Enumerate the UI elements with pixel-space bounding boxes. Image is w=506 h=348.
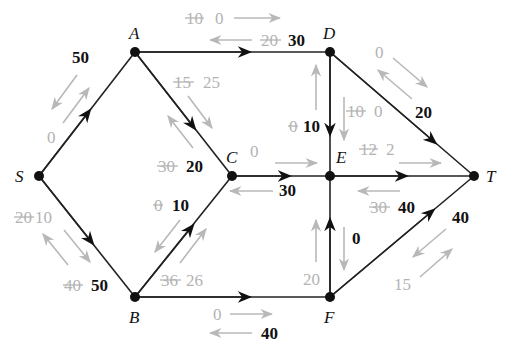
ft-back-value: 40 xyxy=(452,208,469,227)
label-d: D xyxy=(322,24,336,43)
sb-fwd-value: 10 xyxy=(35,208,52,227)
node-b xyxy=(130,292,140,302)
dt-fwd-arrow-icon xyxy=(393,58,427,87)
node-f xyxy=(325,292,335,302)
ad-fwd-value: 0 xyxy=(215,9,224,28)
sb-back-arrow-icon xyxy=(43,234,68,265)
et-fwd-value: 2 xyxy=(386,140,395,159)
label-a: A xyxy=(128,24,140,43)
de-fwd-value: 0 xyxy=(374,102,383,121)
sa-fwd-value: 0 xyxy=(47,128,56,147)
ft-back-arrow-icon xyxy=(413,229,446,257)
ft-fwd-arrow-icon xyxy=(420,249,452,277)
ce-back-value: 30 xyxy=(279,181,296,200)
node-c xyxy=(227,171,237,181)
label-s: S xyxy=(15,167,24,186)
node-e xyxy=(325,171,335,181)
fe-back-value: 0 xyxy=(352,229,361,248)
edges xyxy=(39,52,474,297)
dt-back-value: 20 xyxy=(415,103,432,122)
sa-back-value: 50 xyxy=(72,48,89,67)
edge-d-t-arrow-icon xyxy=(330,52,432,140)
bc-fwd-arrow-icon xyxy=(180,229,206,263)
bc-fwd-value: 26 xyxy=(186,271,203,290)
ad-back-value: 30 xyxy=(288,31,305,50)
fe-fwd-value: 20 xyxy=(303,270,320,289)
ac-fwd-value: 25 xyxy=(203,73,220,92)
node-a xyxy=(130,47,140,57)
label-t: T xyxy=(486,167,497,186)
dt-back-arrow-icon xyxy=(378,70,412,99)
et-back-value: 40 xyxy=(398,198,415,217)
nodes xyxy=(34,47,479,302)
node-d xyxy=(325,47,335,57)
bf-fwd-value: 0 xyxy=(213,305,222,324)
label-f: F xyxy=(323,308,335,327)
node-t xyxy=(469,171,479,181)
bc-back-value: 10 xyxy=(172,196,189,215)
ft-fwd-value: 15 xyxy=(394,275,411,294)
bf-back-value: 40 xyxy=(261,324,278,343)
label-b: B xyxy=(129,308,140,327)
flow-network-diagram: S A D C E T B F 50 0 20 10 40 50 10 0 20… xyxy=(0,0,506,348)
label-e: E xyxy=(335,148,347,167)
de-back-value: 10 xyxy=(303,117,320,136)
node-s xyxy=(34,171,44,181)
ac-back-value: 20 xyxy=(186,157,203,176)
label-c: C xyxy=(226,148,238,167)
sa-back-arrow-icon xyxy=(52,75,77,109)
sb-back-value: 50 xyxy=(91,276,108,295)
dt-fwd-value: 0 xyxy=(375,43,384,62)
ce-fwd-value: 0 xyxy=(250,142,259,161)
